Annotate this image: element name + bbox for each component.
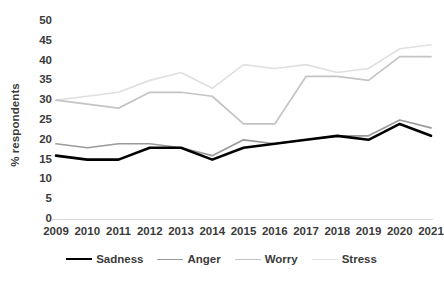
x-tick-label-2010: 2010 <box>74 224 100 238</box>
legend-label: Sadness <box>96 253 143 265</box>
y-tick-label-35: 35 <box>26 75 52 87</box>
plot-area <box>56 21 431 219</box>
legend-item-sadness[interactable]: Sadness <box>66 253 143 265</box>
series-line-worry <box>56 57 431 124</box>
series-line-sadness <box>56 124 431 160</box>
x-tick-label-2012: 2012 <box>137 224 163 238</box>
y-axis-tick-labels: 05101520253035404550 <box>26 14 52 226</box>
legend-swatch-worry-icon <box>235 259 261 260</box>
x-tick-label-2020: 2020 <box>387 224 413 238</box>
x-tick-label-2017: 2017 <box>293 224 319 238</box>
x-tick-label-2018: 2018 <box>324 224 350 238</box>
x-tick-label-2009: 2009 <box>43 224 69 238</box>
x-axis-tick-labels: 2009201020112012201320142015201620172018… <box>56 224 431 242</box>
y-tick-label-20: 20 <box>26 134 52 146</box>
x-tick-label-2014: 2014 <box>199 224 225 238</box>
y-tick-label-10: 10 <box>26 174 52 186</box>
legend-swatch-stress-icon <box>312 259 338 260</box>
chart-legend: SadnessAngerWorryStress <box>0 249 443 269</box>
y-tick-label-15: 15 <box>26 154 52 166</box>
x-tick-label-2011: 2011 <box>106 224 131 238</box>
legend-item-stress[interactable]: Stress <box>312 253 377 265</box>
series-line-stress <box>56 45 431 100</box>
legend-swatch-sadness-icon <box>66 258 92 260</box>
y-tick-label-30: 30 <box>26 94 52 106</box>
x-tick-label-2015: 2015 <box>231 224 257 238</box>
legend-swatch-anger-icon <box>157 259 183 260</box>
y-tick-label-40: 40 <box>26 55 52 67</box>
y-tick-label-45: 45 <box>26 35 52 47</box>
x-tick-label-2019: 2019 <box>356 224 382 238</box>
legend-label: Stress <box>342 253 377 265</box>
y-axis-title-text: % respondents <box>9 83 21 167</box>
x-axis-baseline <box>52 219 433 220</box>
y-tick-label-50: 50 <box>26 15 52 27</box>
x-tick-label-2013: 2013 <box>168 224 194 238</box>
y-axis-title: % respondents <box>4 60 26 190</box>
legend-label: Anger <box>187 253 220 265</box>
series-lines <box>56 21 431 219</box>
legend-label: Worry <box>265 253 298 265</box>
x-tick-label-2021: 2021 <box>418 224 444 238</box>
x-tick-label-2016: 2016 <box>262 224 288 238</box>
y-tick-label-5: 5 <box>26 193 52 205</box>
legend-item-worry[interactable]: Worry <box>235 253 298 265</box>
y-tick-label-25: 25 <box>26 114 52 126</box>
legend-item-anger[interactable]: Anger <box>157 253 220 265</box>
